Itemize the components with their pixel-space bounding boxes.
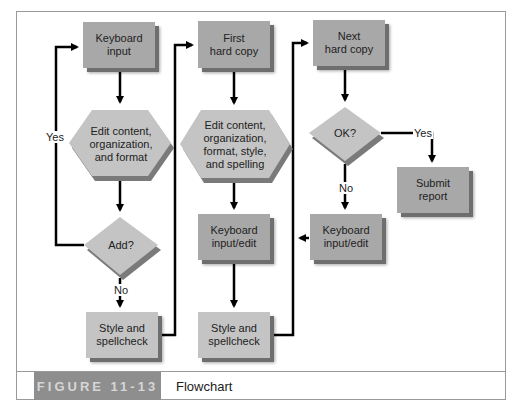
figure-caption: Flowchart <box>176 372 232 400</box>
keyboard-input-edit-box-2: Keyboard input/edit <box>310 214 382 260</box>
first-hard-copy-label: First hard copy <box>210 32 258 58</box>
style-spellcheck-label-2: Style and spellcheck <box>208 322 259 348</box>
next-hard-copy-box: Next hard copy <box>313 20 385 66</box>
next-hard-copy-label: Next hard copy <box>325 30 373 56</box>
submit-report-label: Submit report <box>416 177 450 203</box>
add-no-label: No <box>113 284 129 296</box>
keyboard-input-edit-label-1: Keyboard input/edit <box>210 224 257 250</box>
keyboard-input-label: Keyboard input <box>95 32 142 58</box>
figure-number-badge: FIGURE 11-13 <box>34 372 161 400</box>
first-hard-copy-box: First hard copy <box>198 21 270 68</box>
edit-content-label-2: Edit content, organization, format, styl… <box>204 119 267 171</box>
style-spellcheck-label-1: Style and spellcheck <box>96 322 147 348</box>
keyboard-input-edit-box-1: Keyboard input/edit <box>198 214 270 260</box>
keyboard-input-box: Keyboard input <box>83 22 155 68</box>
ok-decision-label: OK? <box>334 127 356 140</box>
figure-number: FIGURE 11-13 <box>37 379 158 394</box>
ok-yes-label: Yes <box>413 127 433 139</box>
edit-content-label-1: Edit content, organization, and format <box>90 125 153 164</box>
style-spellcheck-box-2: Style and spellcheck <box>198 312 270 358</box>
submit-report-box: Submit report <box>397 167 469 213</box>
figure-title: Flowchart <box>176 379 232 394</box>
keyboard-input-edit-label-2: Keyboard input/edit <box>322 224 369 250</box>
add-yes-label: Yes <box>45 131 65 143</box>
ok-no-label: No <box>338 182 354 194</box>
style-spellcheck-box-1: Style and spellcheck <box>86 312 158 358</box>
add-decision-label: Add? <box>108 239 134 252</box>
